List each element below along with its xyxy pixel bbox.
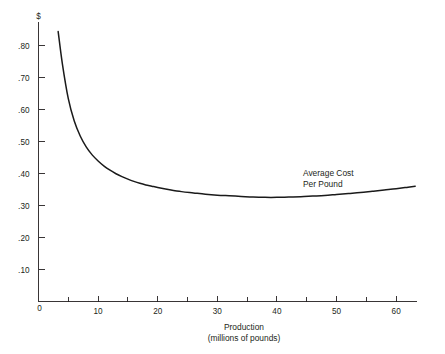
y-tick-label: .50 [18, 138, 30, 147]
x-tick-marks [68, 296, 396, 302]
y-tick-label: .10 [18, 266, 30, 275]
x-tick-label: 40 [272, 307, 282, 316]
curve-annotation-line2: Per Pound [303, 179, 343, 189]
y-tick-label: 0 [37, 304, 42, 313]
y-tick-label: .80 [18, 42, 30, 51]
y-tick-label: .30 [18, 202, 30, 211]
average-cost-curve [58, 32, 415, 198]
x-axis-label-units: (millions of pounds) [208, 333, 281, 343]
x-tick-label: 60 [392, 307, 402, 316]
y-tick-label: .70 [18, 74, 30, 83]
curve-annotation-line1: Average Cost [303, 168, 354, 178]
x-tick-labels: 102030405060 [94, 307, 402, 316]
average-cost-chart-figure: 0.10.20.30.40.50.60.70.80 102030405060 $… [0, 0, 445, 354]
y-tick-label: .40 [18, 170, 30, 179]
y-axis-currency-symbol: $ [36, 12, 41, 21]
x-axis-label: Production [224, 322, 264, 332]
chart-canvas: 0.10.20.30.40.50.60.70.80 102030405060 $… [0, 0, 445, 354]
x-tick-label: 20 [153, 307, 163, 316]
x-tick-label: 10 [94, 307, 104, 316]
y-tick-label: .20 [18, 234, 30, 243]
x-tick-label: 30 [213, 307, 223, 316]
y-tick-marks [39, 46, 45, 270]
x-tick-label: 50 [332, 307, 342, 316]
y-axis-group [39, 22, 45, 302]
x-axis-group [39, 296, 418, 302]
y-tick-label: .60 [18, 106, 30, 115]
